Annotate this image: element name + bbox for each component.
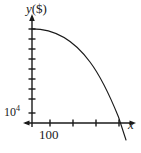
plot-area <box>0 0 141 153</box>
x-tick-label: 100 <box>39 128 59 141</box>
y-tick-label-exponent: 4 <box>16 104 20 113</box>
y-tick-label-base: 10 <box>4 105 16 119</box>
x-axis-label: x <box>128 118 134 131</box>
y-tick-label: 104 <box>4 106 20 118</box>
y-axis-unit: ($) <box>32 1 47 16</box>
graph-figure: y($) x 104 100 <box>0 0 141 153</box>
y-axis-label: y($) <box>26 2 47 15</box>
x-axis-left-arrow-icon <box>23 120 30 125</box>
